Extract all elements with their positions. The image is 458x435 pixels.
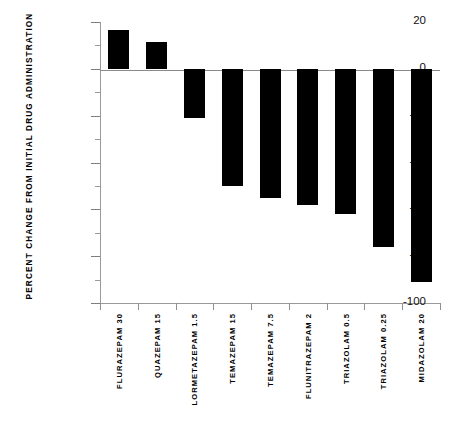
x-axis-label: TEMAZEPAM 15: [227, 313, 238, 431]
x-axis-label: QUAZEPAM 15: [151, 313, 162, 431]
y-tick-major: [91, 163, 100, 164]
x-label-slot: TEMAZEPAM 7.5: [261, 313, 279, 433]
x-tick: [176, 303, 177, 310]
bar: [373, 69, 394, 247]
bar: [297, 69, 318, 205]
bar: [411, 69, 432, 282]
plot-area: 200-20-40-60-80-100: [100, 22, 440, 303]
x-tick: [138, 303, 139, 310]
x-tick: [402, 303, 403, 310]
x-axis-label: FLUNITRAZEPAM 2: [302, 313, 313, 431]
y-tick-major: [91, 209, 100, 210]
x-label-slot: TRIAZOLAM 0.5: [337, 313, 355, 433]
bar-chart: PERCENT CHANGE FROM INITIAL DRUG ADMINIS…: [0, 0, 458, 435]
x-label-slot: FLUNITRAZEPAM 2: [299, 313, 317, 433]
y-tick-major: [91, 256, 100, 257]
x-label-slot: FLURAZEPAM 30: [110, 313, 128, 433]
y-tick-major: [91, 116, 100, 117]
x-axis-label: TRIAZOLAM 0.25: [378, 313, 389, 431]
x-label-slot: TEMAZEPAM 15: [223, 313, 241, 433]
x-tick: [100, 303, 101, 310]
x-tick: [251, 303, 252, 310]
x-axis-label: MIDAZOLAM 20: [416, 313, 427, 431]
y-tick-label: 20: [382, 14, 426, 26]
x-tick: [364, 303, 365, 310]
bar: [108, 30, 129, 69]
bar: [335, 69, 356, 214]
y-tick-minor: [95, 139, 100, 140]
x-axis-label: LORMETAZEPAM 1.5: [189, 313, 200, 431]
x-tick: [213, 303, 214, 310]
x-axis-label: TRIAZOLAM 0.5: [340, 313, 351, 431]
y-axis-title: PERCENT CHANGE FROM INITIAL DRUG ADMINIS…: [20, 6, 40, 306]
bar: [222, 69, 243, 186]
bar: [146, 42, 167, 69]
x-axis-label: FLURAZEPAM 30: [113, 313, 124, 431]
y-tick-label: -100: [382, 295, 426, 307]
x-label-slot: QUAZEPAM 15: [148, 313, 166, 433]
x-label-slot: MIDAZOLAM 20: [412, 313, 430, 433]
y-tick-major: [91, 69, 100, 70]
x-label-slot: LORMETAZEPAM 1.5: [185, 313, 203, 433]
x-tick: [327, 303, 328, 310]
y-tick-major: [91, 22, 100, 23]
x-axis-label: TEMAZEPAM 7.5: [265, 313, 276, 431]
x-tick: [289, 303, 290, 310]
x-tick: [440, 303, 441, 310]
bar: [260, 69, 281, 198]
x-label-slot: TRIAZOLAM 0.25: [374, 313, 392, 433]
y-tick-minor: [95, 45, 100, 46]
y-tick-minor: [95, 186, 100, 187]
y-tick-major: [91, 303, 100, 304]
bar: [184, 69, 205, 118]
y-tick-minor: [95, 233, 100, 234]
y-tick-minor: [95, 280, 100, 281]
y-tick-minor: [95, 92, 100, 93]
